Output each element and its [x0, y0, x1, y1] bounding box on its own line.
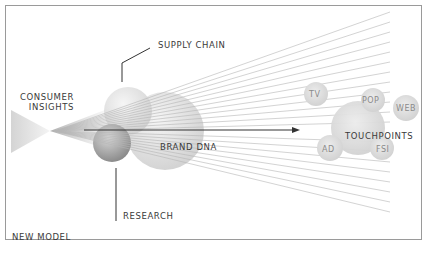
consumer-insights-label: CONSUMER INSIGHTS [12, 92, 74, 112]
diagram-graphics [0, 0, 429, 257]
model-title: NEW MODEL [12, 232, 71, 242]
ad-label: AD [322, 145, 335, 154]
consumer-insights-line1: CONSUMER [12, 92, 74, 102]
touchpoints-label: TOUCHPOINTS [345, 131, 413, 141]
consumer-insights-cone [11, 110, 50, 153]
research-label: RESEARCH [123, 211, 173, 221]
tv-label: TV [309, 90, 320, 99]
arrow-head-icon [292, 127, 300, 133]
consumer-insights-line2: INSIGHTS [12, 102, 74, 112]
supply-chain-label: SUPPLY CHAIN [158, 40, 226, 50]
fsi-label: FSI [376, 145, 389, 154]
supply-chain-leader [122, 48, 150, 82]
pop-label: POP [362, 96, 379, 105]
web-label: WEB [396, 104, 416, 113]
brand-dna-label: BRAND DNA [160, 142, 217, 152]
